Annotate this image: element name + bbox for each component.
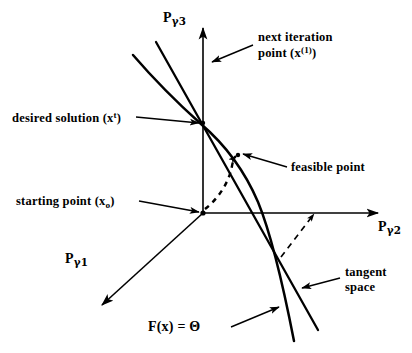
equation-operator: =: [177, 319, 185, 334]
leader-next-iteration: [212, 45, 253, 62]
tangent-space-line: [156, 42, 318, 330]
annotation-feasible-point: feasible point: [291, 160, 365, 174]
marker-feasible-point: [236, 153, 240, 157]
annotation-tangent-space-line2: space: [345, 280, 387, 295]
leader-desired-solution: [136, 117, 199, 123]
iteration-arc-dashed: [205, 156, 236, 209]
annotation-next-iteration-superscript: (1): [301, 45, 312, 55]
equation-rhs: Θ: [189, 319, 200, 334]
figure-canvas: Pγ3 Pγ2 Pγ1 next iteration point (x(1)) …: [0, 0, 412, 353]
axis-label-vertical: Pγ3: [163, 10, 186, 27]
annotation-desired-solution-post: ): [117, 111, 121, 125]
marker-starting-point: [200, 210, 205, 215]
axis-label-depth: Pγ1: [65, 251, 88, 268]
projection-arrow-dashed: [281, 214, 314, 257]
annotation-desired-solution-pre: desired solution (x: [12, 111, 114, 125]
annotation-tangent-space-line1: tangent: [345, 265, 387, 280]
leader-feasible-point: [243, 154, 287, 167]
annotation-next-iteration-line2: point (x(1)): [258, 45, 333, 61]
leader-tangent-space: [302, 278, 340, 288]
axis-label-depth-base: P: [65, 251, 74, 266]
annotation-next-iteration-pre: point (x: [258, 46, 301, 60]
constraint-curve: [133, 55, 294, 341]
marker-desired-solution: [201, 121, 205, 125]
annotation-starting-point-post: ): [110, 194, 114, 208]
axis-label-horizontal-subscript: γ2: [387, 224, 401, 236]
annotation-tangent-space: tangent space: [345, 265, 387, 295]
annotation-next-iteration-post: ): [312, 46, 316, 60]
axis-label-vertical-base: P: [163, 10, 172, 25]
equation-lhs: F(x): [148, 319, 174, 334]
annotation-desired-solution: desired solution (xt): [12, 110, 121, 125]
diagram-svg: [0, 0, 412, 353]
axis-depth: [102, 213, 203, 305]
axis-label-horizontal: Pγ2: [378, 219, 401, 236]
leader-equation: [231, 307, 279, 327]
annotation-starting-point: starting point (xo): [16, 194, 115, 210]
axis-label-depth-subscript: γ1: [74, 256, 88, 268]
axis-label-horizontal-base: P: [378, 219, 387, 234]
leader-starting-point: [139, 201, 199, 212]
annotation-equation: F(x) = Θ: [148, 319, 200, 335]
annotation-starting-point-pre: starting point (x: [16, 194, 106, 208]
annotation-next-iteration-line1: next iteration: [258, 30, 333, 45]
annotation-next-iteration-point: next iteration point (x(1)): [258, 30, 333, 61]
axis-label-vertical-subscript: γ3: [172, 15, 186, 27]
